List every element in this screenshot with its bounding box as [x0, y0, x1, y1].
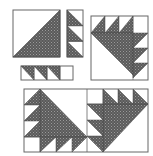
- vertical-triangle-strip: [67, 10, 83, 57]
- horizontal-triangle-strip: [21, 66, 73, 80]
- assembled-block-pair-bottom: [24, 89, 148, 152]
- quilt-diagram: [0, 0, 153, 156]
- assembled-block-top-right: [91, 16, 148, 80]
- large-half-square-triangle: [13, 10, 60, 57]
